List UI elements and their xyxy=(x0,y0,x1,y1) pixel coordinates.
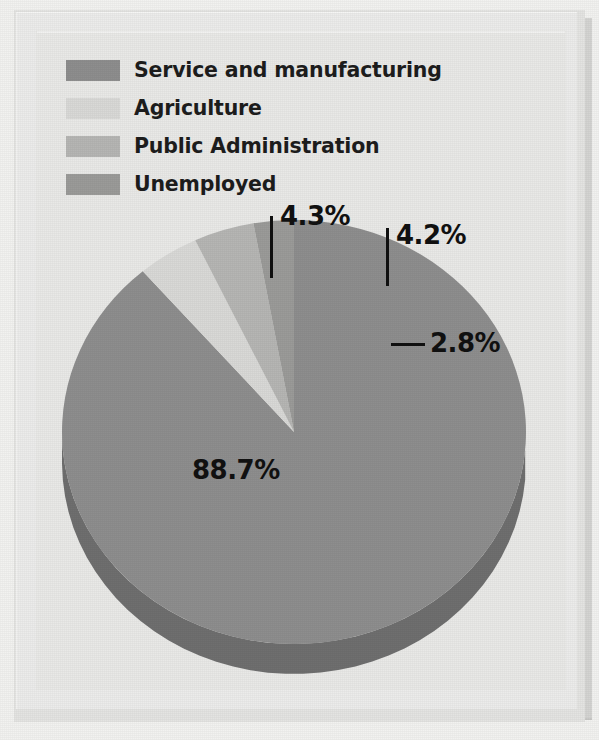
data-label-service-and-manufacturing: 88.7% xyxy=(192,457,280,483)
legend-item-agriculture[interactable]: Agriculture xyxy=(66,93,486,131)
leader-line-unemployed xyxy=(391,343,425,346)
legend-item-service-and-manufacturing[interactable]: Service and manufacturing xyxy=(66,55,486,93)
legend-swatch-unemployed xyxy=(66,174,120,195)
legend-swatch-agriculture xyxy=(66,98,120,119)
leader-line-public-administration xyxy=(386,228,389,286)
legend-label-service-and-manufacturing: Service and manufacturing xyxy=(134,55,442,85)
legend-label-unemployed: Unemployed xyxy=(134,169,276,199)
data-label-public-administration: 4.2% xyxy=(396,222,466,248)
chart-legend: Service and manufacturing Agriculture Pu… xyxy=(66,55,486,207)
legend-label-public-administration: Public Administration xyxy=(134,131,379,161)
leader-line-agriculture xyxy=(270,216,273,278)
plot-area-highlight xyxy=(37,31,565,33)
legend-label-agriculture: Agriculture xyxy=(134,93,262,123)
legend-swatch-service-and-manufacturing xyxy=(66,60,120,81)
legend-swatch-public-administration xyxy=(66,136,120,157)
data-label-agriculture: 4.3% xyxy=(280,203,350,229)
legend-item-unemployed[interactable]: Unemployed xyxy=(66,169,486,207)
pie-chart-figure: Service and manufacturing Agriculture Pu… xyxy=(0,0,599,740)
data-label-unemployed: 2.8% xyxy=(430,330,500,356)
legend-item-public-administration[interactable]: Public Administration xyxy=(66,131,486,169)
